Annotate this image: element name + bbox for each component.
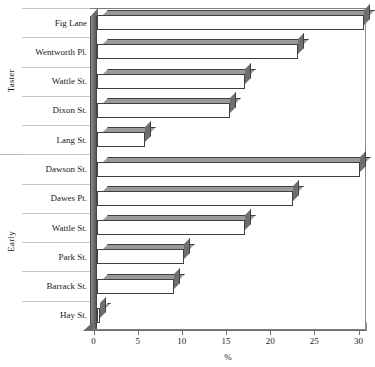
bar-front-face (97, 103, 230, 118)
x-axis-tick (138, 330, 139, 335)
bar (97, 132, 145, 147)
category-tick (22, 37, 90, 38)
category-tick (22, 125, 90, 126)
plot-area (90, 8, 366, 330)
bar (97, 15, 364, 30)
bar-front-face (97, 132, 145, 147)
x-axis: 051015202530 (90, 330, 366, 344)
bar-front-face (97, 308, 100, 323)
bar-front-face (97, 191, 293, 206)
category-tick (22, 301, 90, 302)
x-axis-tick (359, 330, 360, 335)
bar (97, 103, 230, 118)
bar (97, 162, 360, 177)
bar-side-face (298, 33, 304, 54)
bar-front-face (97, 74, 245, 89)
category-label: Barrack St. (47, 281, 88, 291)
bar-front-face (97, 44, 298, 59)
bar (97, 44, 298, 59)
x-axis-title: % (90, 352, 366, 362)
x-axis-tick-label: 20 (258, 336, 282, 346)
axis-corner-right (366, 322, 375, 331)
bar-front-face (97, 15, 364, 30)
category-label: Wentworth Pl. (35, 47, 87, 57)
bar-side-face (245, 63, 251, 84)
bar-side-face (293, 180, 299, 201)
category-tick (22, 8, 90, 9)
category-label: Hay St. (60, 310, 87, 320)
bar-front-face (97, 279, 174, 294)
bar-front-face (97, 249, 184, 264)
category-label: Wattle St. (52, 76, 87, 86)
bar (97, 191, 293, 206)
category-label: Dixon St. (52, 105, 87, 115)
category-label: Wattle St. (52, 223, 87, 233)
bar-chart: Taster Early Fig LaneWentworth Pl.Wattle… (0, 0, 375, 367)
bar-front-face (97, 220, 245, 235)
x-axis-tick (226, 330, 227, 335)
plot-right-edge (365, 8, 366, 330)
category-tick (22, 67, 90, 68)
bar (97, 249, 184, 264)
category-tick (22, 242, 90, 243)
category-label: Park St. (58, 252, 87, 262)
x-axis-tick-label: 25 (302, 336, 326, 346)
group-label-taster: Taster (0, 8, 22, 154)
category-label: Lang St. (57, 135, 88, 145)
bar-side-face (230, 92, 236, 113)
bar (97, 74, 245, 89)
x-axis-tick (270, 330, 271, 335)
category-label: Dawson St. (45, 164, 87, 174)
group-label-early: Early (0, 154, 22, 330)
bar-side-face (245, 209, 251, 230)
category-tick (22, 96, 90, 97)
x-axis-tick-label: 15 (214, 336, 238, 346)
x-axis-tick (182, 330, 183, 335)
plot-baseline (90, 321, 366, 330)
bar (97, 220, 245, 235)
category-label: Dawes Pt. (51, 193, 88, 203)
bar-side-face (145, 121, 151, 142)
category-label: Fig Lane (55, 18, 87, 28)
bar (97, 308, 100, 323)
bar-side-face (100, 297, 106, 318)
x-axis-tick-label: 5 (126, 336, 150, 346)
x-axis-tick-label: 10 (170, 336, 194, 346)
group-axis: Taster Early (0, 0, 22, 330)
value-axis-wall (90, 16, 97, 330)
bar-side-face (184, 238, 190, 259)
category-tick (22, 271, 90, 272)
x-axis-tick (94, 330, 95, 335)
bar-side-face (174, 268, 180, 289)
bar (97, 279, 174, 294)
category-axis: Fig LaneWentworth Pl.Wattle St.Dixon St.… (22, 0, 90, 330)
x-axis-tick-label: 30 (347, 336, 371, 346)
bar-front-face (97, 162, 360, 177)
x-axis-line (90, 330, 366, 331)
x-axis-tick (314, 330, 315, 335)
plot-top-edge (90, 8, 366, 9)
x-axis-tick-label: 0 (82, 336, 106, 346)
category-tick (22, 213, 90, 214)
category-tick (22, 184, 90, 185)
category-tick (22, 154, 90, 155)
